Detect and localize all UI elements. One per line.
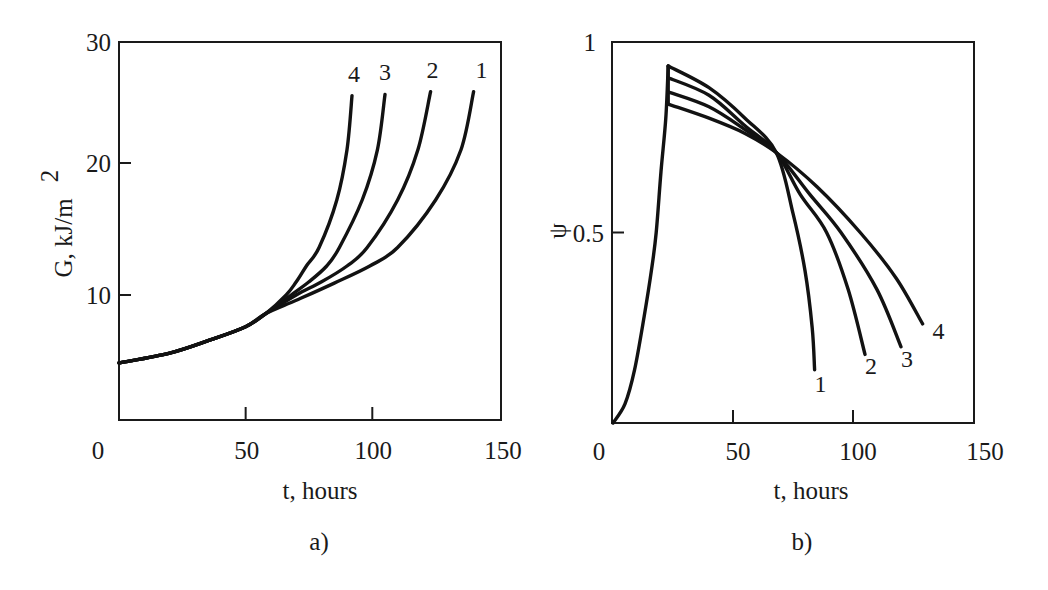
panel-a-x-axis-title: t, hours xyxy=(283,477,358,504)
x-tick-label: 100 xyxy=(839,438,877,465)
panel-a-curve-label-4: 4 xyxy=(348,61,360,87)
panel-b-curve-label-2: 2 xyxy=(865,353,877,379)
x-tick-label: 0 xyxy=(593,438,606,465)
x-tick-label: 100 xyxy=(355,437,393,464)
panel-b-x-axis-title: t, hours xyxy=(774,477,849,504)
panel-b-curve-label-1: 1 xyxy=(815,371,827,397)
panel-a-curve-label-3: 3 xyxy=(379,59,391,85)
panel-b-curve-label-4: 4 xyxy=(933,318,945,344)
panel-a-curves xyxy=(119,92,474,363)
panel-a-curve-label-1: 1 xyxy=(476,57,488,83)
x-tick-label: 50 xyxy=(726,438,751,465)
panel-b-ticks: 0501001500.51 xyxy=(573,29,1004,465)
panel-a-curve-1 xyxy=(119,92,474,363)
x-tick-label: 0 xyxy=(92,437,105,464)
panel-a-y-axis-title-superscript: 2 xyxy=(36,170,63,183)
x-tick-label: 50 xyxy=(234,437,259,464)
panel-b-y-axis-title-text: ψ xyxy=(544,223,571,239)
panel-a-y-axis-title: G, kJ/m 2 xyxy=(36,170,77,278)
y-tick-label: 20 xyxy=(86,150,111,177)
panel-a-curve-2 xyxy=(119,92,431,363)
figure: 050100150102030 1234 t, hours G, kJ/m 2 … xyxy=(0,0,1048,590)
svg-text:G, kJ/m: G, kJ/m xyxy=(50,198,77,278)
panel-b-curve-2 xyxy=(668,78,865,355)
x-tick-label: 150 xyxy=(966,438,1004,465)
panel-a-plot-frame xyxy=(119,42,501,420)
y-tick-label: 10 xyxy=(86,282,111,309)
panel-b-chart: 0501001500.51 1234 t, hours ψ b) xyxy=(544,29,1004,556)
panel-a-curve-4 xyxy=(119,96,352,363)
panel-b-y-axis-title: ψ xyxy=(544,223,571,239)
panel-a-chart: 050100150102030 1234 t, hours G, kJ/m 2 … xyxy=(36,29,522,556)
panel-b-curve-labels: 1234 xyxy=(815,318,945,397)
panel-b-curve-3 xyxy=(668,92,901,347)
panel-a-y-axis-title-text: G, kJ/m xyxy=(50,198,77,278)
panel-b-curve-label-3: 3 xyxy=(901,346,913,372)
panel-a-curve-labels: 1234 xyxy=(348,57,488,87)
y-tick-label: 1 xyxy=(584,29,597,56)
panel-b-curve-4 xyxy=(668,104,922,324)
y-tick-label: 0.5 xyxy=(573,220,604,247)
panel-b-label: b) xyxy=(792,528,813,556)
panel-a-ticks: 050100150102030 xyxy=(86,29,522,464)
y-tick-label: 30 xyxy=(86,29,111,56)
panel-a-label: a) xyxy=(309,528,328,556)
panel-b-rising-curve xyxy=(613,66,668,423)
panel-a-curve-label-2: 2 xyxy=(427,57,439,83)
x-tick-label: 150 xyxy=(484,437,522,464)
